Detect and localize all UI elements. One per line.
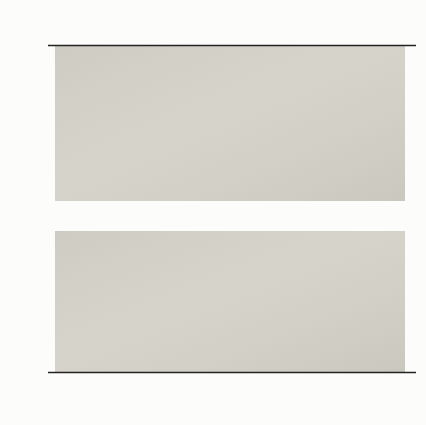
graph-paper-lower: [55, 231, 405, 372]
semilog-chart-svg: [0, 0, 426, 425]
chart-figure: [0, 0, 426, 425]
graph-paper-upper: [55, 46, 405, 201]
